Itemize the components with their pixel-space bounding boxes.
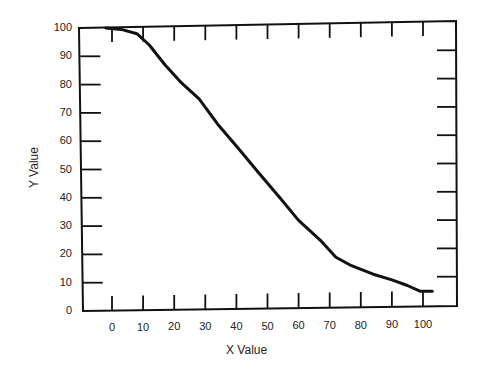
- y-tick-label: 70: [42, 107, 72, 118]
- y-tick-label: 0: [42, 305, 72, 316]
- x-tick-label: 20: [159, 321, 189, 332]
- y-tick-label: 80: [42, 79, 72, 90]
- x-tick-label: 30: [190, 321, 220, 332]
- data-line: [106, 28, 433, 291]
- x-tick-label: 70: [315, 320, 345, 331]
- y-axis-title: Y Value: [27, 147, 41, 188]
- y-tick-label: 10: [42, 277, 72, 288]
- x-tick-label: 50: [253, 321, 283, 332]
- y-tick-label: 20: [42, 248, 72, 259]
- y-tick-label: 50: [42, 164, 72, 175]
- y-tick-label: 90: [42, 50, 72, 61]
- x-axis-title: X Value: [226, 343, 267, 357]
- y-tick-label: 100: [42, 22, 72, 33]
- y-tick-label: 40: [42, 192, 72, 203]
- plot-frame: [79, 21, 457, 311]
- x-tick-label: 100: [408, 319, 438, 330]
- y-tick-label: 30: [42, 220, 72, 231]
- x-tick-label: 10: [128, 322, 158, 333]
- tick-marks: [80, 21, 457, 311]
- x-tick-label: 60: [284, 320, 314, 331]
- x-tick-label: 80: [346, 320, 376, 331]
- x-tick-label: 90: [377, 319, 407, 330]
- x-tick-label: 40: [221, 321, 251, 332]
- line-chart: [0, 0, 480, 373]
- y-tick-label: 60: [42, 135, 72, 146]
- x-tick-label: 0: [97, 322, 127, 333]
